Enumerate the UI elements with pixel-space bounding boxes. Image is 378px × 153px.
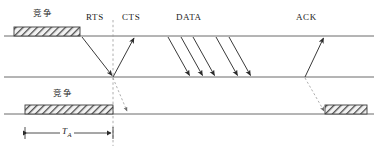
contention-bar-bottom-left [25, 105, 113, 114]
data-arrow-5 [229, 37, 251, 76]
data-arrows-group [168, 37, 251, 76]
rts-arrow [82, 37, 112, 76]
contention-label-bottom: 竞争 [53, 86, 73, 98]
ack-label: ACK [296, 12, 317, 22]
diagram-canvas [0, 0, 378, 153]
data-label: DATA [176, 12, 202, 22]
contention-label-top: 竞争 [33, 6, 53, 18]
rts-dashed-arrow [113, 78, 127, 111]
contention-bar-bottom-right [325, 105, 367, 114]
data-arrow-1 [168, 37, 190, 76]
contention-bars-group [14, 27, 367, 114]
nav-dashed-arrow [305, 78, 324, 111]
csma-ca-timing-diagram: 竞争 RTS CTS DATA ACK 竞争 TA [0, 0, 378, 153]
ta-duration-label: TA [60, 126, 74, 138]
rts-label: RTS [86, 12, 104, 22]
data-arrow-3 [193, 37, 215, 76]
data-arrow-2 [181, 37, 203, 76]
contention-bar-top [14, 27, 80, 36]
cts-arrow [113, 38, 134, 77]
data-arrow-4 [216, 37, 238, 76]
cts-label: CTS [122, 12, 140, 22]
ta-subscript: A [68, 131, 73, 138]
ack-arrow [305, 38, 324, 77]
